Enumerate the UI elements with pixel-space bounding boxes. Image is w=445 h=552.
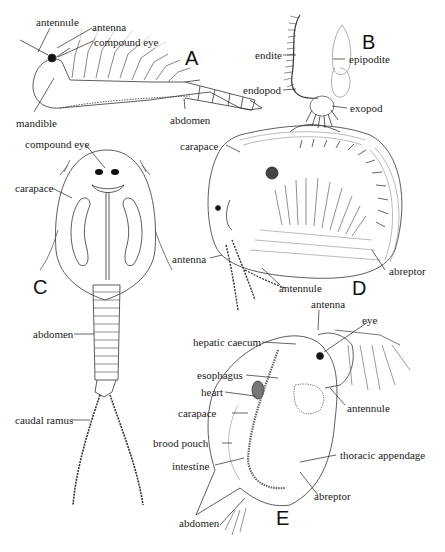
label-d-abreptor: abreptor — [389, 265, 426, 277]
panel-letter-a: A — [185, 48, 198, 68]
label-e-thoracic-appendage: thoracic appendage — [340, 449, 425, 461]
label-c-abdomen: abdomen — [33, 328, 73, 340]
label-e-eye: eye — [362, 314, 377, 326]
label-c-caudal-ramus: caudal ramus — [15, 414, 73, 426]
crustacean-anatomy-illustration — [0, 0, 445, 552]
label-e-hepatic-caecum: hepatic caecum — [193, 336, 261, 348]
panel-letter-d: D — [352, 278, 366, 298]
label-e-antenna: antenna — [311, 298, 345, 310]
label-e-brood-pouch: brood pouch — [153, 437, 208, 449]
label-e-carapace: carapace — [178, 407, 216, 419]
label-e-esophagus: esophagus — [197, 369, 243, 381]
label-a-mandible: mandible — [16, 117, 57, 129]
label-d-carapace: carapace — [180, 140, 218, 152]
panel-letter-b: B — [362, 32, 375, 52]
label-e-heart: heart — [201, 386, 223, 398]
label-b-endopod: endopod — [243, 84, 281, 96]
label-e-intestine: intestine — [172, 460, 209, 472]
label-c-carapace: carapace — [15, 182, 53, 194]
label-a-antennule: antennule — [36, 16, 79, 28]
label-e-abreptor: abreptor — [314, 490, 351, 502]
panel-e-drawing — [196, 330, 410, 535]
label-e-antennule: antennule — [347, 402, 390, 414]
panel-letter-c: C — [33, 277, 47, 297]
label-b-exopod: exopod — [350, 102, 382, 114]
label-b-endite: endite — [255, 49, 282, 61]
label-a-compound-eye: compound eye — [94, 36, 158, 48]
figure-canvas: A B C D E antennule antenna compound eye… — [0, 0, 445, 552]
label-b-epipodite: epipodite — [349, 53, 390, 65]
label-d-antennule: antennule — [279, 282, 322, 294]
label-d-antenna: antenna — [172, 253, 206, 265]
label-a-abdomen: abdomen — [170, 114, 210, 126]
label-e-abdomen: abdomen — [179, 517, 219, 529]
label-c-compound-eye: compound eye — [25, 138, 89, 150]
panel-letter-e: E — [276, 508, 289, 528]
label-a-antenna: antenna — [92, 21, 126, 33]
panel-b-drawing — [284, 15, 351, 128]
